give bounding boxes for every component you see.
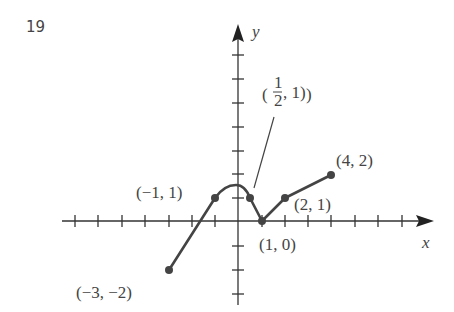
- x-axis-label: x: [421, 233, 430, 252]
- point-4-2: [327, 171, 335, 179]
- label-half-1: ( 1 2 , 1) ): [262, 73, 312, 110]
- point-neg3-neg2: [165, 266, 173, 274]
- svg-text:1: 1: [274, 73, 283, 92]
- point-2-1: [281, 194, 289, 202]
- label-2-1: (2, 1): [294, 195, 331, 214]
- label-neg1-1: (−1, 1): [136, 183, 182, 202]
- point-1-0: [258, 217, 266, 225]
- svg-text:2: 2: [274, 91, 283, 110]
- leader-line: [254, 117, 274, 188]
- point-neg1-1: [211, 194, 219, 202]
- svg-text:, 1): , 1): [283, 83, 306, 102]
- axes: [62, 36, 422, 305]
- y-axis-label: y: [250, 22, 260, 41]
- function-graph: y x (−3, −2) (−1, 1) ( 1 2 , 1) ) (1, 0)…: [0, 0, 454, 312]
- label-neg3-neg2: (−3, −2): [76, 283, 132, 302]
- label-4-2: (4, 2): [336, 151, 373, 170]
- svg-text:): ): [306, 85, 312, 104]
- function-curve: [169, 175, 331, 270]
- label-1-0: (1, 0): [259, 235, 296, 254]
- svg-text:(: (: [262, 85, 268, 104]
- point-half-1: [246, 194, 254, 202]
